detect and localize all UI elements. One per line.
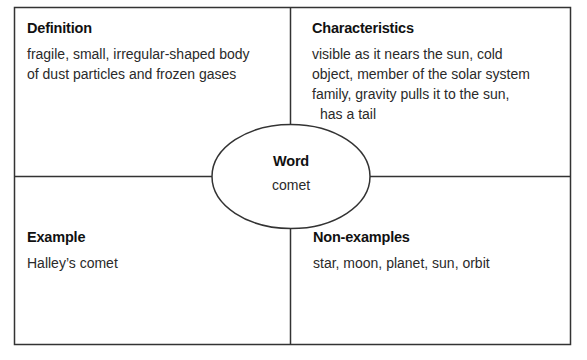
word-center: Word comet [212,125,370,228]
characteristics-text: visible as it nears the sun, cold object… [312,44,567,124]
characteristics-line: object, member of the solar system [312,64,567,84]
non-examples-quadrant: Non-examples star, moon, planet, sun, or… [313,229,568,273]
definition-line: of dust particles and frozen gases [27,64,282,84]
example-quadrant: Example Halley’s comet [27,229,282,273]
word-value: comet [212,175,370,195]
characteristics-heading: Characteristics [312,20,567,36]
definition-text: fragile, small, irregular-shaped body of… [27,44,282,84]
definition-heading: Definition [27,20,282,36]
characteristics-quadrant: Characteristics visible as it nears the … [312,20,567,124]
example-line: Halley’s comet [27,253,282,273]
definition-quadrant: Definition fragile, small, irregular-sha… [27,20,282,84]
definition-line: fragile, small, irregular-shaped body [27,44,282,64]
example-text: Halley’s comet [27,253,282,273]
characteristics-line: has a tail [312,104,567,124]
characteristics-line: family, gravity pulls it to the sun, [312,84,567,104]
non-examples-heading: Non-examples [313,229,568,245]
characteristics-line: visible as it nears the sun, cold [312,44,567,64]
non-examples-text: star, moon, planet, sun, orbit [313,253,568,273]
non-examples-line: star, moon, planet, sun, orbit [313,253,568,273]
example-heading: Example [27,229,282,245]
word-heading: Word [212,153,370,169]
